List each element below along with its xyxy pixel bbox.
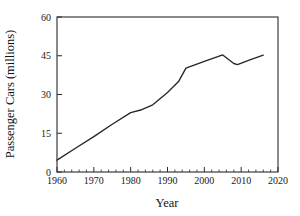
y-tick-label: 15 <box>41 128 51 139</box>
x-axis-major-ticks <box>57 167 278 172</box>
data-series-group <box>57 55 263 160</box>
y-tick-label: 30 <box>41 89 51 100</box>
y-tick-label: 60 <box>41 12 51 23</box>
y-axis-tick-labels: 015304560 <box>41 12 51 178</box>
x-axis-tick-labels: 1960197019801990200020102020 <box>47 175 288 186</box>
x-axis-title: Year <box>155 196 179 210</box>
x-tick-label: 1980 <box>121 175 141 186</box>
line-chart: 1960197019801990200020102020 015304560 Y… <box>0 0 300 216</box>
y-tick-label: 45 <box>41 50 51 61</box>
chart-canvas: 1960197019801990200020102020 015304560 Y… <box>0 0 300 216</box>
x-tick-label: 1970 <box>84 175 104 186</box>
y-axis-title: Passenger Cars (millions) <box>3 30 17 158</box>
plot-frame <box>57 17 278 172</box>
plot-area-border <box>57 17 278 172</box>
x-tick-label: 2010 <box>231 175 251 186</box>
series-line-passenger-cars <box>57 55 263 160</box>
x-tick-label: 2000 <box>194 175 214 186</box>
y-axis-major-ticks <box>57 17 62 172</box>
y-tick-label: 0 <box>46 167 51 178</box>
x-tick-label: 2020 <box>268 175 288 186</box>
x-tick-label: 1990 <box>158 175 178 186</box>
